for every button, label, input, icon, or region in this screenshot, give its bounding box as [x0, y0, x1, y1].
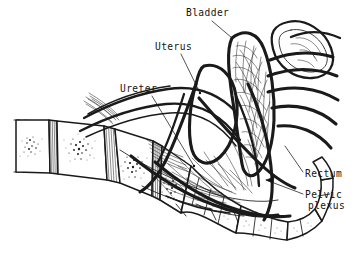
- nerve-root-s2: [268, 70, 337, 76]
- label-rectum-leader: [285, 146, 303, 172]
- label-ureter-text: Ureter: [120, 83, 157, 94]
- label-bladder-text: Bladder: [186, 7, 229, 18]
- sacral-nerve-roots: [268, 32, 340, 148]
- rectum-descending-limb: [248, 84, 272, 220]
- ovary-inner-1: [279, 30, 327, 72]
- nerve-root-s3: [268, 88, 338, 100]
- anatomical-figure: Bladder Uterus Ureter Rectum Pelvic plex…: [0, 0, 361, 269]
- vertebra-body-1: [16, 120, 50, 173]
- nerve-root-s5: [278, 126, 331, 148]
- label-uterus-leader-dot: [199, 92, 201, 94]
- label-uterus-text: Uterus: [155, 41, 192, 52]
- label-pelvic-plexus-text-line1: Pelvic: [305, 189, 342, 200]
- label-bladder-leader: [212, 21, 232, 38]
- label-ureter-leader-dot: [193, 165, 195, 167]
- nerve-root-s4: [272, 106, 336, 124]
- coccyx-segment-2: [287, 209, 322, 240]
- label-pelvic-plexus-arrowhead: [266, 177, 274, 183]
- lumbar-vertebrae: [14, 120, 191, 213]
- nerve-root-s1: [270, 53, 333, 60]
- figure-canvas: Bladder Uterus Ureter Rectum Pelvic plex…: [0, 0, 361, 269]
- label-rectum-text: Rectum: [305, 168, 342, 179]
- label-bladder: Bladder: [186, 7, 232, 38]
- label-pelvic-plexus-text-line2: plexus: [308, 200, 345, 211]
